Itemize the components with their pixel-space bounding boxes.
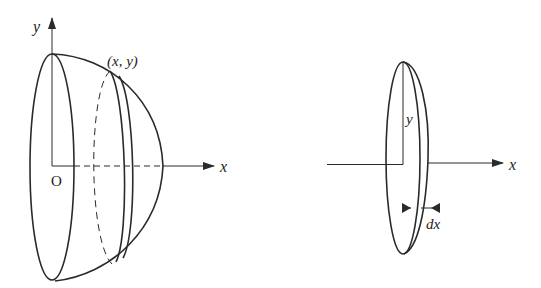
x-axis-label: x: [219, 158, 227, 175]
radius-label: y: [404, 111, 413, 127]
point-label: (x, y): [107, 53, 138, 70]
slice-back-edge: [119, 76, 133, 258]
y-axis-label: y: [31, 18, 41, 36]
left-panel: y x O (x, y): [30, 18, 227, 281]
right-x-axis-label: x: [508, 156, 516, 173]
dome-outline: [52, 54, 163, 281]
diagram-svg: y x O (x, y) y x dx: [0, 0, 541, 288]
dashed-section: [94, 71, 112, 264]
diagram-canvas: y x O (x, y) y x dx: [0, 0, 541, 288]
dx-label: dx: [426, 216, 441, 232]
right-panel: y x dx: [327, 62, 516, 254]
origin-label: O: [51, 173, 62, 189]
